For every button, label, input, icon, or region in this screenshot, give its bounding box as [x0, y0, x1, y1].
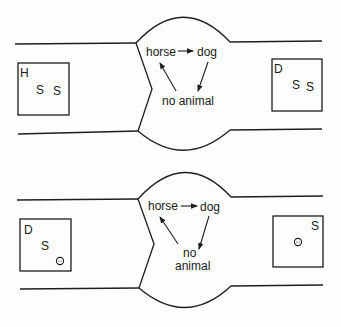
corridor-top-upper-right: [230, 41, 322, 42]
arrow-no-animal-to-horse: [160, 63, 176, 91]
corridor-top-upper-left: [15, 43, 136, 44]
smiley-face-icon: [56, 257, 63, 264]
state-no-animal-line2: animal: [175, 259, 210, 273]
symbol-s: S: [306, 80, 314, 94]
box-letter: D: [274, 62, 283, 76]
box-letter: H: [20, 66, 29, 80]
corridor-bottom-upper-left: [17, 199, 138, 200]
bottom-right-box: S: [273, 216, 323, 267]
top-panel: H S S D S S horse dog no animal: [15, 17, 322, 150]
corridor-top-arc-upper: [136, 17, 230, 43]
state-horse: horse: [148, 199, 178, 213]
symbol-s: S: [36, 83, 44, 97]
top-right-box: D S S: [272, 59, 322, 111]
symbol-s: S: [41, 239, 49, 253]
arrow-dog-to-no-animal: [198, 62, 208, 91]
corridor-top-lower-right: [230, 129, 322, 130]
arrow-no-animal-to-horse: [160, 217, 178, 244]
symbol-s: S: [292, 78, 300, 92]
state-no-animal: no animal: [162, 94, 214, 108]
diagram-canvas: H S S D S S horse dog no animal D: [0, 0, 341, 327]
symbol-s: S: [53, 84, 61, 98]
corridor-bottom-arc-upper: [138, 172, 231, 199]
corridor-bottom-arc-lower: [139, 286, 231, 308]
corridor-top-arc-lower: [138, 130, 230, 150]
top-left-box: H S S: [18, 63, 69, 115]
corridor-bottom-upper-right: [231, 196, 323, 197]
box-letter: S: [311, 219, 319, 233]
state-horse: horse: [146, 45, 176, 59]
box-letter: D: [24, 223, 33, 237]
state-dog: dog: [200, 200, 220, 214]
corridor-top-lower-left: [18, 131, 138, 134]
corridor-bottom-lower-right: [231, 285, 323, 286]
state-no-animal-line1: no: [183, 246, 197, 260]
corridor-bottom-lower-left: [20, 288, 139, 289]
bottom-panel: D S S horse dog no animal: [17, 172, 323, 307]
bottom-left-box: D S: [20, 219, 71, 271]
arrow-dog-to-no-animal: [199, 216, 209, 249]
state-dog: dog: [197, 45, 217, 59]
smiley-face-icon: [294, 238, 301, 245]
